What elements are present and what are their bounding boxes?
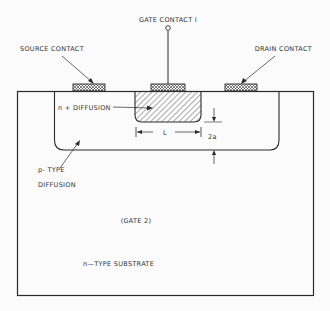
substrate-label: n—TYPE SUBSTRATE [83,260,154,268]
drain-contact-pad [225,84,257,91]
gate-2-label: (GATE 2) [121,217,152,225]
ptype-arrowhead-icon [75,140,80,146]
source-contact-pad [73,84,105,91]
dimension-L-arrow-left-icon [137,130,142,134]
drain-arrowhead-icon [241,78,247,84]
depth-label: 2a [208,133,217,141]
source-leader-line [62,56,92,82]
drain-leader-line [243,56,275,82]
dimension-2a-bottom-arrow-icon [212,150,216,155]
dimension-2a-top-arrow-icon [212,117,216,122]
gate-contact-1-label: GATE CONTACT I [139,16,197,24]
p-type-label-line1: p- TYPE [38,166,65,174]
jfet-cross-section-diagram: GATE CONTACT I SOURCE CONTACT DRAIN CONT… [0,0,330,311]
ptype-leader-line [60,143,78,168]
gate-contact-pad [151,84,185,91]
n-plus-diffusion-region [135,92,201,123]
source-contact-label: SOURCE CONTACT [20,45,84,53]
drain-contact-label: DRAIN CONTACT [255,45,312,53]
n-plus-diffusion-label: n + DIFFUSION [58,104,111,112]
p-type-label-line2: DIFFUSION [38,181,76,189]
channel-length-label: L [163,129,167,137]
dimension-L-arrow-right-icon [195,130,200,134]
gate-terminal-icon [166,26,171,31]
